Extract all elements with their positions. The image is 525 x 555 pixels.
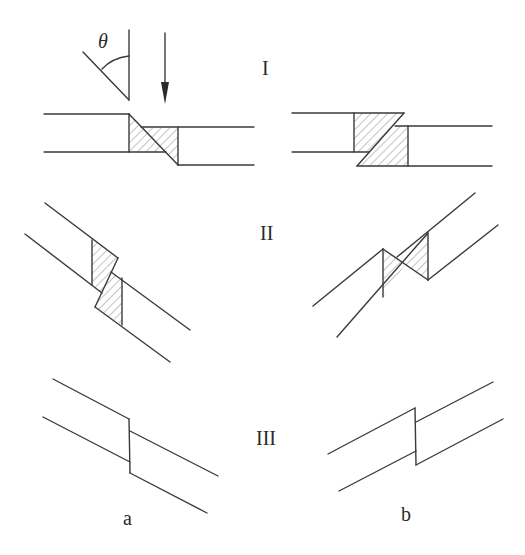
stage-label-3: III	[256, 427, 276, 449]
case-label-b: b	[401, 503, 411, 525]
panel-3b	[328, 382, 503, 491]
panel-1a	[44, 114, 254, 165]
angle-theta-icon: θ	[83, 30, 129, 100]
down-arrow-icon	[161, 33, 169, 104]
stage-label-1: I	[262, 57, 269, 79]
panel-3a	[43, 379, 218, 513]
panel-2a	[25, 203, 190, 362]
stage-label-2: II	[260, 222, 273, 244]
panel-2b	[313, 193, 498, 337]
theta-label: θ	[98, 30, 108, 52]
diagram-canvas: θ I II III a b	[0, 0, 525, 555]
case-label-a: a	[123, 507, 132, 529]
panel-1b	[292, 113, 492, 166]
